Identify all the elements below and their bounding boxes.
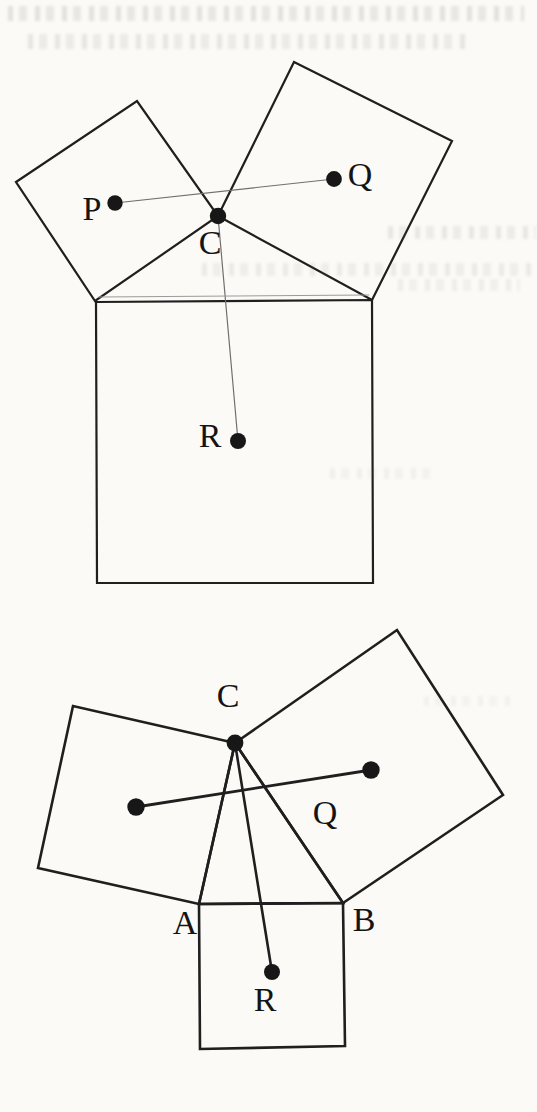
bottom-figure-point-left-square-center xyxy=(127,798,144,815)
top-figure-point-R xyxy=(230,433,246,449)
top-figure-point-P xyxy=(107,195,122,210)
scanned-book-page: PQCRCQABR xyxy=(0,0,537,1112)
top-figure-segment-P-Q xyxy=(115,179,334,203)
bottom-figure-point-C xyxy=(227,735,244,752)
top-figure-label-P: P xyxy=(83,190,102,227)
top-figure-label-Q: Q xyxy=(348,156,373,193)
top-figure-label-C: C xyxy=(199,224,222,261)
top-figure-label-R: R xyxy=(199,417,222,454)
bottom-figure-point-R xyxy=(264,964,280,980)
bottom-figure-label-R: R xyxy=(254,981,277,1018)
bottom-figure: CQABR xyxy=(38,630,503,1049)
top-figure: PQCR xyxy=(16,62,452,583)
top-figure-triangle-base-scan-double-line xyxy=(99,295,369,297)
bottom-figure-label-C: C xyxy=(217,677,240,714)
top-figure-point-C xyxy=(210,208,226,224)
geometry-diagram: PQCRCQABR xyxy=(0,0,537,1112)
bottom-figure-segment-C-R xyxy=(235,743,272,972)
bottom-figure-label-Q: Q xyxy=(313,794,338,831)
bottom-figure-point-Q xyxy=(362,761,379,778)
bottom-figure-label-A: A xyxy=(173,904,198,941)
bottom-figure-label-B: B xyxy=(353,901,376,938)
top-figure-point-Q xyxy=(326,171,342,187)
